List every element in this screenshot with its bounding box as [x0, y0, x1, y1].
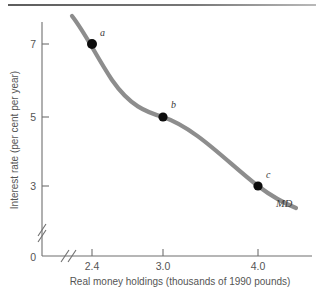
data-point-b [158, 112, 167, 121]
md-curve-label: MD [275, 198, 293, 209]
x-axis-title: Real money holdings (thousands of 1990 p… [70, 276, 291, 287]
y-tick-label-7: 7 [30, 38, 36, 50]
y-tick-label-5: 5 [30, 111, 36, 123]
data-point-label-a: a [100, 27, 105, 38]
x-tick-label-2-4: 2.4 [85, 260, 100, 272]
data-point-c [253, 181, 262, 190]
data-point-label-c: c [266, 169, 271, 180]
y-axis-title: Interest rate (per cent per year) [9, 71, 20, 209]
money-demand-chart: a b c MD 7 5 3 0 2.4 3.0 4.0 Interest ra… [0, 0, 324, 296]
data-point-a [87, 39, 97, 49]
x-tick-label-4-0: 4.0 [251, 260, 266, 272]
data-point-label-b: b [171, 99, 176, 110]
md-curve [72, 16, 296, 208]
y-tick-label-3: 3 [30, 180, 36, 192]
x-tick-label-3-0: 3.0 [156, 260, 171, 272]
chart-canvas: a b c MD 7 5 3 0 2.4 3.0 4.0 Interest ra… [0, 0, 324, 296]
origin-label: 0 [30, 251, 36, 263]
